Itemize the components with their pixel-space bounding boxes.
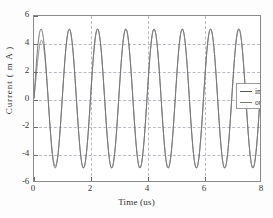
legend-label-input: input [255,88,261,96]
legend-item-input: input [239,86,261,97]
x-axis-tick [205,177,206,181]
y-tick-label: -6 [11,176,29,186]
legend-swatch-output [240,102,252,103]
x-tick-label: 2 [80,183,100,193]
legend: input output [236,83,261,109]
legend-swatch-input [240,91,252,92]
plot-area: input output [33,15,261,182]
y-axis-title: Current ( m A ) [4,30,14,130]
legend-label-output: output [255,99,261,107]
y-tick-label: 6 [11,9,29,19]
x-tick-label: 6 [194,183,214,193]
x-axis-title: Time (us) [0,197,273,207]
y-axis-tick [34,16,38,17]
y-axis-tick [34,127,38,128]
figure: input output 02468 -6-4-20246 Time (us) … [0,0,273,218]
x-tick-label: 8 [251,183,271,193]
legend-item-output: output [239,97,261,108]
y-axis-tick [34,72,38,73]
y-tick-label: -4 [11,148,29,158]
x-axis-tick [34,177,35,181]
y-axis-tick [34,44,38,45]
series-line-output [34,29,260,168]
y-axis-tick [34,155,38,156]
x-axis-tick [91,177,92,181]
data-curves [34,16,260,181]
y-axis-tick [34,100,38,101]
x-axis-tick [148,177,149,181]
x-tick-label: 4 [137,183,157,193]
